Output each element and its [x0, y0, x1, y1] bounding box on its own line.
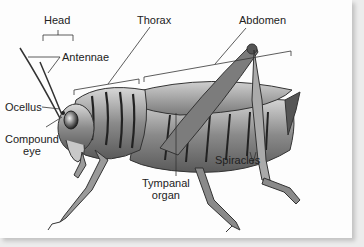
label-tympanal-organ: Tympanal organ [142, 177, 190, 201]
label-abdomen: Abdomen [239, 14, 286, 26]
label-ocellus: Ocellus [5, 101, 42, 113]
compound-eye-shape [64, 111, 78, 129]
grasshopper-illustration [0, 0, 352, 238]
label-compound-eye-line2: eye [5, 145, 59, 157]
label-tympanal-line2: organ [142, 189, 190, 201]
label-spiracles: Spiracles [215, 154, 260, 166]
ocellus-shape [61, 111, 65, 115]
label-head: Head [44, 14, 70, 26]
label-antennae: Antennae [62, 51, 109, 63]
label-compound-eye: Compound eye [5, 133, 59, 157]
label-compound-eye-line1: Compound [5, 133, 59, 145]
middle-leg [195, 168, 240, 232]
label-tympanal-line1: Tympanal [142, 177, 190, 189]
label-thorax: Thorax [137, 14, 171, 26]
diagram-card: Head Thorax Abdomen Antennae Ocellus Com… [0, 0, 352, 238]
